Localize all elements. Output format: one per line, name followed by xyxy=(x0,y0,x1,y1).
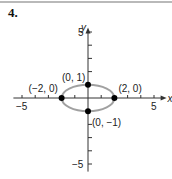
data-point xyxy=(111,95,117,101)
point-label: (−2, 0) xyxy=(29,83,58,94)
y-tick-label: −5 xyxy=(72,159,84,170)
chart-plot: −555−5xy(0, 1)(−2, 0)(2, 0)(0, −1) xyxy=(0,0,172,179)
data-point xyxy=(85,108,91,114)
point-label: (2, 0) xyxy=(118,83,141,94)
data-point xyxy=(59,95,65,101)
x-tick-label: −5 xyxy=(16,101,28,112)
y-axis-label: y xyxy=(80,22,87,33)
point-label: (0, −1) xyxy=(92,117,121,128)
x-axis-arrow-icon xyxy=(161,96,167,101)
x-axis-label: x xyxy=(167,93,172,104)
data-point xyxy=(85,82,91,88)
point-label: (0, 1) xyxy=(62,72,85,83)
x-tick-label: 5 xyxy=(151,101,157,112)
